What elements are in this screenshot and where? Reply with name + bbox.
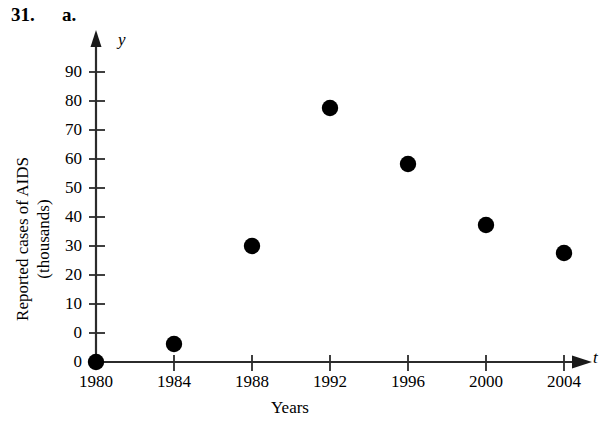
y-axis-title-line2: (thousands) [33, 114, 54, 364]
y-tick-label: 40 [50, 207, 82, 227]
y-axis [91, 30, 102, 362]
x-tick-label: 1980 [65, 372, 127, 392]
y-tick-label: 50 [50, 178, 82, 198]
y-tick-label: 70 [50, 120, 82, 140]
y-tick-label: 10 [50, 294, 82, 314]
data-point [400, 156, 416, 172]
x-tick-label: 2004 [533, 372, 595, 392]
y-tick-label: 90 [50, 62, 82, 82]
y-axis-variable-label: y [118, 30, 126, 50]
y-tick-label: 30 [50, 236, 82, 256]
y-origin-label: 0 [50, 352, 82, 372]
data-point [166, 336, 182, 352]
x-tick-label: 1996 [377, 372, 439, 392]
x-axis-title: Years [259, 398, 321, 418]
x-tick-label: 1988 [221, 372, 283, 392]
data-points [88, 100, 572, 370]
data-point [478, 217, 494, 233]
y-axis-title: Reported cases of AIDS (thousands) [12, 114, 54, 364]
y-tick-label: 0 [50, 323, 82, 343]
data-point [244, 238, 260, 254]
y-axis-title-line1: Reported cases of AIDS [12, 114, 33, 364]
x-tick-label: 1984 [143, 372, 205, 392]
x-tick-label: 2000 [455, 372, 517, 392]
y-tick-label: 80 [50, 91, 82, 111]
x-axis-variable-label: t [593, 348, 598, 368]
data-point [322, 100, 338, 116]
x-axis [96, 356, 592, 369]
x-tick-label: 1992 [299, 372, 361, 392]
data-point [556, 245, 572, 261]
y-tick-label: 20 [50, 265, 82, 285]
figure-panel: 31. a. [0, 0, 609, 424]
scatter-plot [0, 0, 609, 424]
data-point [88, 354, 104, 370]
y-tick-label: 60 [50, 149, 82, 169]
plot-svg [0, 0, 609, 424]
